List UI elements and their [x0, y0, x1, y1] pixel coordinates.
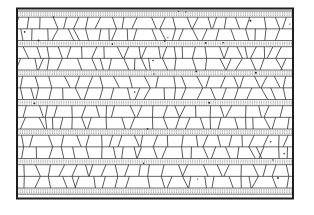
pattern-figure [0, 0, 314, 215]
pattern-figure-container [0, 0, 314, 215]
page [0, 0, 314, 215]
